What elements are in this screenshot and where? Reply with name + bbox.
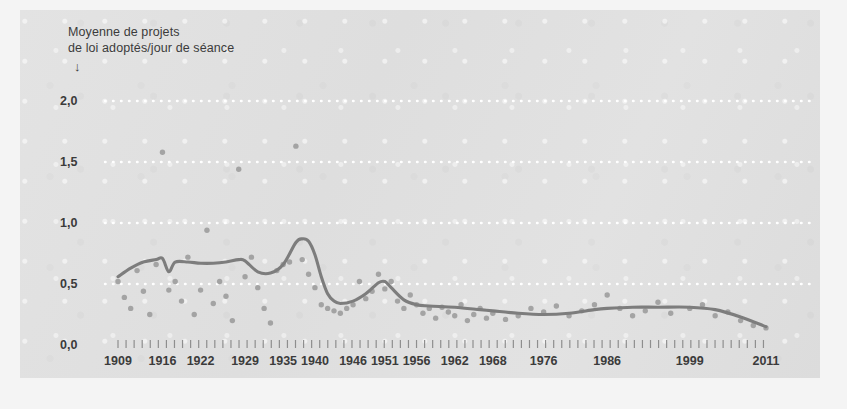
scatter-point — [401, 306, 406, 311]
scatter-point — [160, 150, 165, 155]
scatter-point — [408, 292, 413, 297]
scatter-point — [300, 257, 305, 262]
scatter-point — [325, 306, 330, 311]
scatter-point — [141, 289, 146, 294]
x-axis-label-1935: 1935 — [269, 354, 297, 368]
plot-area — [0, 0, 847, 409]
scatter-point — [630, 313, 635, 318]
x-axis-tick-marks — [118, 340, 763, 348]
scatter-point — [395, 298, 400, 303]
x-axis-label-1962: 1962 — [441, 354, 469, 368]
x-axis-label-1999: 1999 — [676, 354, 704, 368]
scatter-point — [433, 315, 438, 320]
scatter-point — [204, 228, 209, 233]
figure-root: Moyenne de projets de loi adoptés/jour d… — [0, 0, 847, 409]
scatter-point — [268, 320, 273, 325]
scatter-point — [655, 300, 660, 305]
scatter-point — [185, 254, 190, 259]
scatter-point — [452, 313, 457, 318]
x-axis-label-1946: 1946 — [339, 354, 367, 368]
y-axis-label-1,5: 1,5 — [60, 155, 100, 169]
scatter-point — [223, 294, 228, 299]
scatter-point — [465, 318, 470, 323]
x-axis-label-2011: 2011 — [752, 354, 779, 368]
x-axis-label-1956: 1956 — [403, 354, 431, 368]
scatter-point — [471, 312, 476, 317]
scatter-point — [122, 295, 127, 300]
scatter-point — [242, 274, 247, 279]
scatter-point — [172, 279, 177, 284]
y-axis-label-0,0: 0,0 — [60, 338, 100, 352]
scatter-point — [382, 286, 387, 291]
y-axis-label-2,0: 2,0 — [60, 94, 100, 108]
scatter-point — [604, 292, 609, 297]
scatter-point — [528, 306, 533, 311]
x-axis-label-1909: 1909 — [104, 354, 132, 368]
x-axis-label-1916: 1916 — [149, 354, 177, 368]
scatter-point — [446, 309, 451, 314]
scatter-point — [147, 312, 152, 317]
scatter-point — [306, 272, 311, 277]
scatter-point — [344, 306, 349, 311]
scatter-point — [319, 302, 324, 307]
x-axis-label-1986: 1986 — [593, 354, 621, 368]
scatter-point — [192, 312, 197, 317]
scatter-point — [592, 302, 597, 307]
scatter-points — [115, 143, 768, 330]
x-axis-label-1976: 1976 — [530, 354, 558, 368]
scatter-point — [261, 306, 266, 311]
x-axis-label-1968: 1968 — [479, 354, 507, 368]
scatter-point — [249, 254, 254, 259]
scatter-point — [153, 262, 158, 267]
scatter-point — [503, 317, 508, 322]
scatter-point — [668, 311, 673, 316]
x-axis-label-1951: 1951 — [371, 354, 399, 368]
x-axis-label-1922: 1922 — [187, 354, 215, 368]
x-axis-label-1929: 1929 — [231, 354, 259, 368]
x-axis-label-1940: 1940 — [301, 354, 329, 368]
scatter-point — [312, 285, 317, 290]
scatter-point — [484, 315, 489, 320]
y-axis-label-1,0: 1,0 — [60, 216, 100, 230]
scatter-point — [331, 308, 336, 313]
scatter-point — [420, 311, 425, 316]
scatter-point — [255, 285, 260, 290]
scatter-point — [115, 279, 120, 284]
scatter-point — [179, 298, 184, 303]
scatter-point — [211, 301, 216, 306]
scatter-point — [554, 303, 559, 308]
scatter-point — [217, 279, 222, 284]
scatter-point — [134, 268, 139, 273]
scatter-point — [376, 272, 381, 277]
scatter-point — [166, 287, 171, 292]
scatter-point — [128, 306, 133, 311]
scatter-point — [293, 143, 298, 148]
chart-svg — [0, 0, 847, 409]
y-axis-label-0,5: 0,5 — [60, 277, 100, 291]
scatter-point — [712, 313, 717, 318]
scatter-point — [357, 279, 362, 284]
scatter-point — [643, 308, 648, 313]
scatter-point — [236, 167, 241, 172]
scatter-point — [338, 311, 343, 316]
gridlines — [105, 101, 810, 284]
scatter-point — [198, 287, 203, 292]
scatter-point — [230, 318, 235, 323]
